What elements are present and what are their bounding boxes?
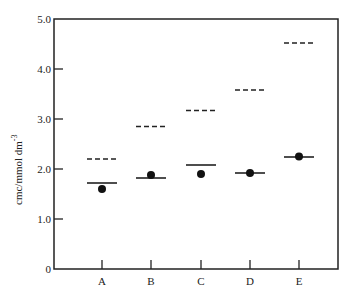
axes-box bbox=[54, 19, 338, 269]
dot-marker bbox=[197, 170, 205, 178]
x-tick-label: D bbox=[246, 275, 254, 287]
x-tick-label: B bbox=[147, 275, 154, 287]
y-tick-label: 4.0 bbox=[37, 63, 51, 75]
y-tick-label: 1.0 bbox=[37, 213, 51, 225]
y-axis-ticks: 01.02.03.04.05.0 bbox=[37, 13, 63, 275]
plot-frame bbox=[54, 19, 338, 269]
y-tick-label: 2.0 bbox=[37, 163, 51, 175]
x-axis-ticks: ABCDE bbox=[98, 260, 303, 287]
dot-marker bbox=[147, 171, 155, 179]
x-tick-label: A bbox=[98, 275, 106, 287]
y-tick-label: 0 bbox=[46, 263, 52, 275]
y-tick-label: 3.0 bbox=[37, 113, 51, 125]
x-tick-label: C bbox=[197, 275, 204, 287]
chart: 01.02.03.04.05.0 ABCDE cmc/mmol dm-3 bbox=[0, 0, 355, 293]
dot-marker bbox=[295, 153, 303, 161]
dot-marker bbox=[98, 185, 106, 193]
y-tick-label: 5.0 bbox=[37, 13, 51, 25]
x-tick-label: E bbox=[296, 275, 303, 287]
data-marks bbox=[87, 43, 314, 193]
dot-marker bbox=[246, 169, 254, 177]
y-axis-title: cmc/mmol dm-3 bbox=[10, 134, 24, 205]
